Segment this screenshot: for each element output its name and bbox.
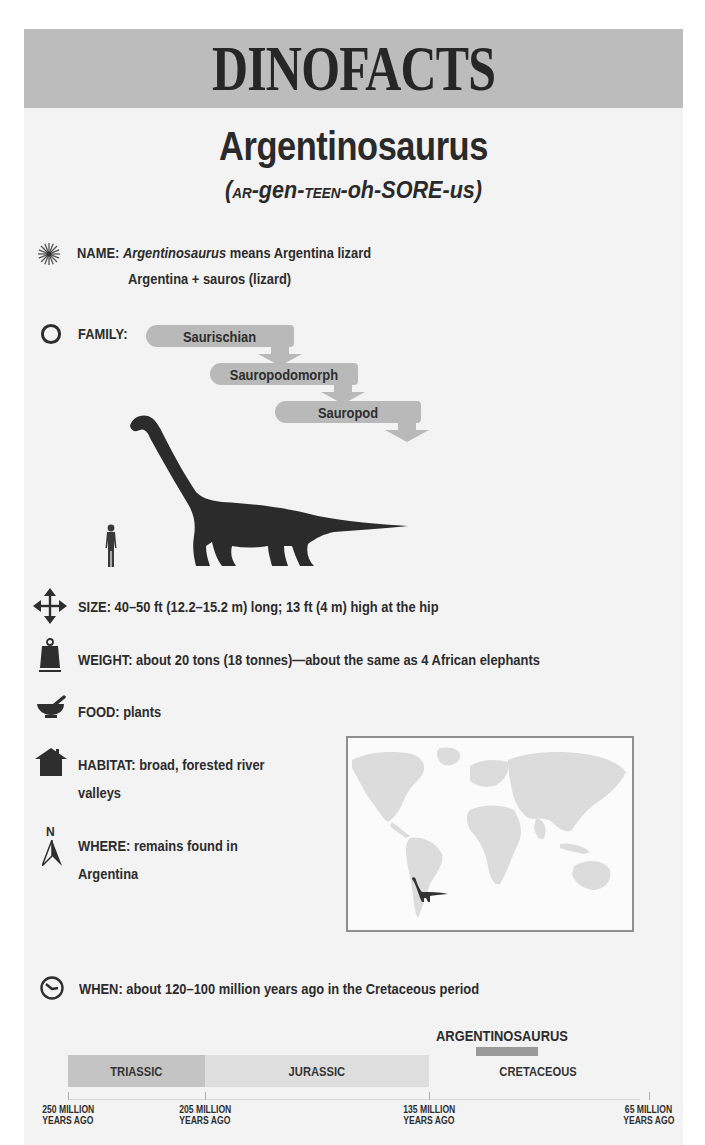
pronunciation-part: ( xyxy=(225,176,232,203)
fact-text: Argentina + sauros (lizard) xyxy=(128,270,291,287)
timeline-axis xyxy=(68,1099,640,1100)
weight-icon xyxy=(38,638,62,674)
family-tag-saurischian: Saurischian xyxy=(146,325,294,347)
period-cretaceous: CRETACEOUS xyxy=(429,1055,640,1087)
period-jurassic: JURASSIC xyxy=(205,1055,429,1087)
timeline-tick xyxy=(649,1092,650,1100)
human-silhouette-icon xyxy=(104,524,118,568)
fact-food: FOOD: plants xyxy=(78,703,175,720)
clock-dinosaur-icon xyxy=(39,975,65,1001)
pronunciation-part: us) xyxy=(450,176,482,203)
fact-name: NAME: Argentinosaurus means Argentina li… xyxy=(77,244,419,261)
argentinosaurus-silhouette xyxy=(128,412,410,568)
fact-when: WHEN: about 120–100 million years ago in… xyxy=(79,980,544,997)
house-icon xyxy=(35,746,67,776)
fact-family: FAMILY: xyxy=(78,325,136,342)
timeline-highlight-label: ARGENTINOSAURUS xyxy=(436,1027,568,1044)
mortar-pestle-icon xyxy=(36,695,66,719)
sun-burst-icon xyxy=(38,243,60,265)
fact-habitat-line2: valleys xyxy=(78,784,128,801)
circle-outline-icon xyxy=(40,323,62,345)
species-name: Argentinosaurus xyxy=(70,124,637,169)
pronunciation: (AR-gen-TEEN-oh-SORE-us) xyxy=(57,176,650,204)
tick-label-205: 205 MILLIONYEARS AGO xyxy=(165,1104,245,1126)
family-tag-sauropodomorph: Sauropodomorph xyxy=(210,363,358,385)
timeline-tick xyxy=(68,1092,69,1100)
fact-label: SIZE: xyxy=(78,598,111,615)
fact-label: NAME: xyxy=(77,244,119,261)
fact-text: valleys xyxy=(78,784,121,801)
compass-letter: N xyxy=(46,825,55,839)
timeline-tick xyxy=(205,1092,206,1100)
fact-text: Argentina xyxy=(78,865,138,882)
tick-label-65: 65 MILLIONYEARS AGO xyxy=(609,1104,689,1126)
fact-label: WHEN: xyxy=(79,980,123,997)
fact-label: WHERE: xyxy=(78,837,130,854)
pronunciation-part: TEEN xyxy=(304,184,340,201)
page-title: DINOFACTS xyxy=(212,37,495,101)
fact-text: plants xyxy=(123,703,161,720)
pronunciation-part: AR xyxy=(232,184,252,201)
fact-text: remains found in xyxy=(134,837,238,854)
four-way-arrows-icon xyxy=(33,588,67,624)
pronunciation-part: -oh-SORE- xyxy=(340,176,449,203)
timeline-tick xyxy=(429,1092,430,1100)
fact-text: 40–50 ft (12.2–15.2 m) long; 13 ft (4 m)… xyxy=(115,598,439,615)
fact-text: means Argentina lizard xyxy=(230,244,371,261)
fact-weight: WEIGHT: about 20 tons (18 tonnes)—about … xyxy=(78,651,615,668)
fact-label: FAMILY: xyxy=(78,325,127,342)
scientific-name: Argentinosaurus xyxy=(123,244,226,261)
fact-size: SIZE: 40–50 ft (12.2–15.2 m) long; 13 ft… xyxy=(78,598,497,615)
fact-habitat: HABITAT: broad, forested river xyxy=(78,756,295,773)
period-triassic: TRIASSIC xyxy=(68,1055,205,1087)
fact-text: about 20 tons (18 tonnes)—about the same… xyxy=(136,651,540,668)
north-compass-icon xyxy=(42,840,62,866)
fact-label: FOOD: xyxy=(78,703,120,720)
fact-where-line2: Argentina xyxy=(78,865,148,882)
fact-label: HABITAT: xyxy=(78,756,136,773)
tick-label-135: 135 MILLIONYEARS AGO xyxy=(389,1104,469,1126)
fact-text: broad, forested river xyxy=(139,756,264,773)
world-map-continents xyxy=(348,738,632,930)
fact-text: about 120–100 million years ago in the C… xyxy=(126,980,479,997)
header-bar: DINOFACTS xyxy=(24,29,683,108)
tick-label-250: 250 MILLIONYEARS AGO xyxy=(28,1104,108,1126)
pronunciation-part: -gen- xyxy=(252,176,305,203)
fact-name-etymology: Argentina + sauros (lizard) xyxy=(128,270,318,287)
world-map xyxy=(346,736,634,932)
fact-label: WEIGHT: xyxy=(78,651,132,668)
fact-where: WHERE: remains found in xyxy=(78,837,264,854)
